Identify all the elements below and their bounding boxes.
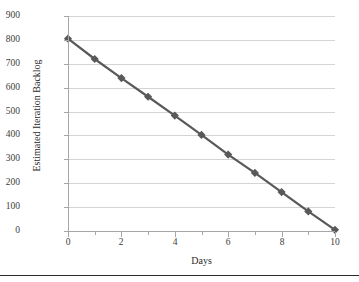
x-axis-tick <box>308 232 309 235</box>
y-axis-tick-label: 400 <box>0 130 20 140</box>
x-axis-title: Days <box>68 255 335 266</box>
series-line-chart <box>68 16 335 231</box>
y-axis-tick <box>64 88 68 89</box>
y-axis-tick-label: 300 <box>0 154 20 164</box>
x-axis-tick-label: 4 <box>160 238 190 248</box>
y-axis-tick-label: 0 <box>0 226 20 236</box>
y-axis-tick <box>64 135 68 136</box>
y-axis-tick <box>64 40 68 41</box>
y-axis-tick-label: 900 <box>0 11 20 21</box>
y-axis-tick-label: 500 <box>0 107 20 117</box>
x-axis-tick-label: 6 <box>213 238 243 248</box>
plot-area <box>68 16 335 231</box>
y-axis-tick <box>64 64 68 65</box>
x-axis-tick-label: 2 <box>106 238 136 248</box>
x-axis-tick <box>255 232 256 235</box>
x-axis-tick <box>95 232 96 235</box>
y-axis-tick <box>64 183 68 184</box>
x-axis-tick-label: 0 <box>53 238 83 248</box>
x-axis-tick-label: 8 <box>267 238 297 248</box>
y-axis-tick-label: 200 <box>0 178 20 188</box>
y-axis-tick <box>64 207 68 208</box>
y-axis-tick-label: 100 <box>0 202 20 212</box>
x-axis-tick <box>202 232 203 235</box>
y-axis-line <box>68 16 69 232</box>
y-axis-tick <box>64 159 68 160</box>
bottom-divider <box>0 275 359 276</box>
x-axis-tick-label: 10 <box>320 238 350 248</box>
y-axis-tick-label: 600 <box>0 83 20 93</box>
y-axis-tick <box>64 16 68 17</box>
y-axis-tick-label: 700 <box>0 59 20 69</box>
y-axis-tick-label: 800 <box>0 35 20 45</box>
y-axis-tick <box>64 112 68 113</box>
chart-page: 0100200300400500600700800900 0246810 Est… <box>0 0 359 282</box>
x-axis-tick <box>148 232 149 235</box>
y-axis-title: Estimated Iteration Backlog <box>31 16 42 216</box>
